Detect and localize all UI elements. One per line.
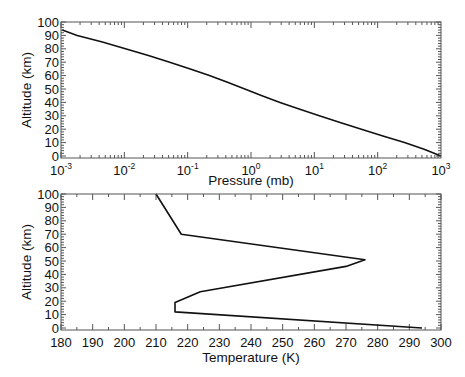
y-tick-label: 30	[45, 280, 59, 295]
top-chart-x-axis-title: Pressure (mb)	[208, 173, 294, 188]
y-tick-label: 10	[45, 135, 59, 150]
y-tick-label: 90	[45, 28, 59, 43]
x-tick-label: 102	[368, 161, 387, 178]
y-tick-label: 40	[45, 267, 59, 282]
x-tick-label: 200	[113, 335, 135, 350]
x-tick-label: 220	[177, 335, 199, 350]
pressure-profile-line	[62, 30, 441, 156]
y-tick-label: 30	[45, 108, 59, 123]
y-tick-label: 60	[45, 68, 59, 83]
x-tick-label: 10-3	[50, 161, 72, 178]
x-tick-label: 190	[82, 335, 104, 350]
bottom-chart-y-tick-labels: 0102030405060708090100	[37, 187, 59, 336]
y-tick-label: 60	[45, 240, 59, 255]
y-tick-label: 10	[45, 307, 59, 322]
x-tick-label: 210	[145, 335, 167, 350]
x-tick-label: 290	[398, 335, 420, 350]
figure: 0102030405060708090100 10-310-210-110010…	[0, 0, 465, 377]
top-chart-y-tick-labels: 0102030405060708090100	[37, 15, 59, 164]
bottom-chart-ticks	[61, 194, 441, 330]
x-tick-label: 230	[208, 335, 230, 350]
y-tick-label: 80	[45, 41, 59, 56]
y-tick-label: 20	[45, 122, 59, 137]
y-tick-label: 40	[45, 95, 59, 110]
temperature-profile-line	[156, 194, 422, 328]
x-tick-label: 280	[367, 335, 389, 350]
pressure-altitude-chart: 0102030405060708090100 10-310-210-110010…	[19, 15, 451, 189]
y-tick-label: 70	[45, 55, 59, 70]
top-chart-ticks	[61, 22, 441, 158]
bottom-chart-x-tick-labels: 180190200210220230240250260270280290300	[50, 335, 452, 350]
y-tick-label: 100	[37, 187, 59, 202]
x-tick-label: 250	[272, 335, 294, 350]
x-tick-label: 300	[430, 335, 452, 350]
top-chart-frame	[61, 22, 441, 158]
y-tick-label: 0	[52, 321, 59, 336]
x-tick-label: 10-2	[113, 161, 135, 178]
x-tick-label: 260	[303, 335, 325, 350]
x-tick-label: 270	[335, 335, 357, 350]
x-tick-label: 10-1	[177, 161, 199, 178]
y-tick-label: 20	[45, 294, 59, 309]
x-tick-label: 101	[305, 161, 324, 178]
y-tick-label: 50	[45, 254, 59, 269]
y-tick-label: 50	[45, 82, 59, 97]
bottom-chart-frame	[61, 194, 441, 330]
temperature-altitude-chart: 0102030405060708090100 18019020021022023…	[19, 187, 452, 366]
x-tick-label: 240	[240, 335, 262, 350]
y-tick-label: 90	[45, 200, 59, 215]
bottom-chart-y-axis-title: Altitude (km)	[19, 224, 34, 300]
top-chart-y-axis-title: Altitude (km)	[19, 52, 34, 128]
y-tick-label: 80	[45, 213, 59, 228]
y-tick-label: 100	[37, 15, 59, 30]
y-tick-label: 0	[52, 149, 59, 164]
x-tick-label: 180	[50, 335, 72, 350]
x-tick-label: 103	[431, 161, 450, 178]
bottom-chart-x-axis-title: Temperature (K)	[202, 350, 300, 365]
y-tick-label: 70	[45, 227, 59, 242]
